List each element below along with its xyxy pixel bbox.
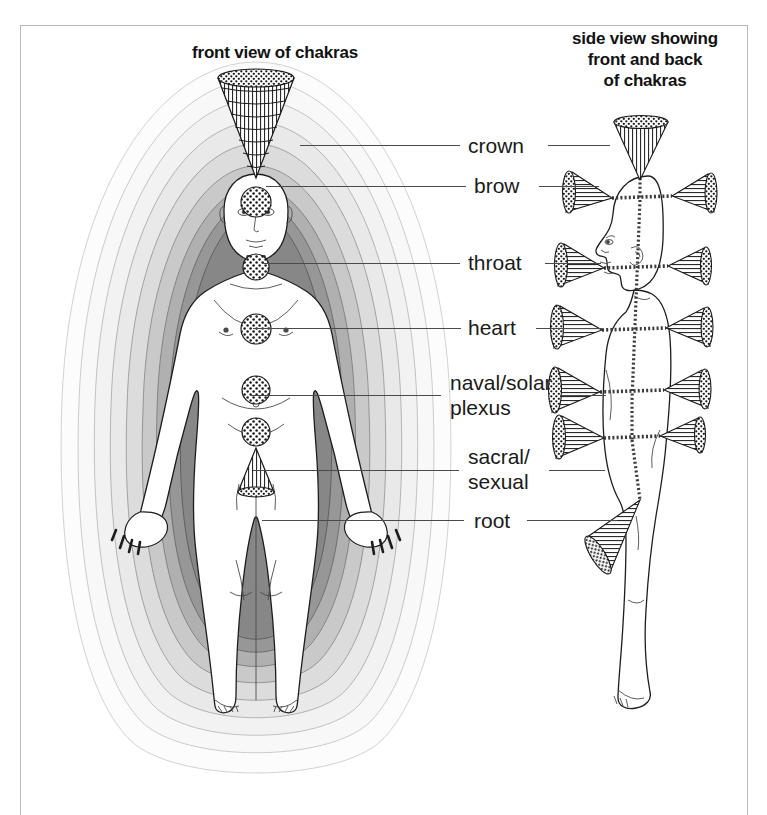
leader-left-crown	[300, 145, 460, 146]
leader-right-brow	[539, 186, 599, 187]
label-sacral: sacral/ sexual	[468, 444, 530, 494]
label-crown: crown	[468, 133, 524, 158]
leader-left-sacral	[253, 470, 459, 471]
label-root: root	[474, 508, 510, 533]
leader-left-root	[262, 520, 464, 521]
label-naval: naval/solar plexus	[450, 370, 552, 420]
left-view-title: front view of chakras	[150, 42, 400, 63]
label-brow: brow	[474, 173, 520, 198]
right-view-title: side view showing front and back of chak…	[545, 28, 745, 91]
leader-right-root	[527, 520, 617, 521]
label-throat: throat	[468, 250, 522, 275]
diagram-frame	[20, 25, 748, 815]
leader-right-sacral	[549, 470, 605, 471]
leader-left-throat	[262, 263, 460, 264]
leader-left-heart	[253, 328, 461, 329]
leader-right-heart	[536, 328, 602, 329]
leader-left-naval	[251, 395, 441, 396]
label-heart: heart	[468, 315, 516, 340]
leader-left-brow	[266, 186, 466, 187]
leader-right-crown	[548, 145, 610, 146]
leader-right-throat	[545, 263, 601, 264]
leader-right-naval	[560, 395, 606, 396]
